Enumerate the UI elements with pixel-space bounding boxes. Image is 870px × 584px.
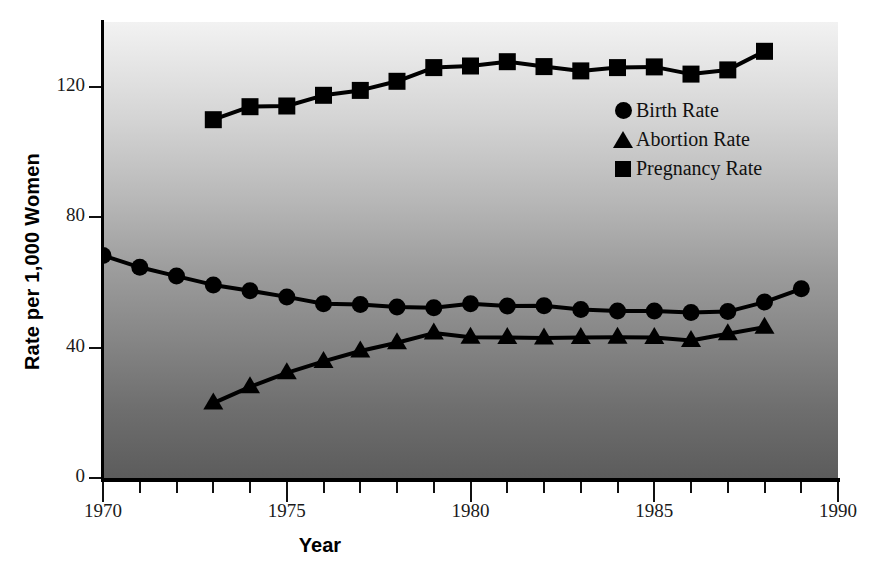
x-tick-mark-minor (176, 482, 178, 493)
triangle-marker (608, 327, 628, 344)
legend-item-birth-rate: Birth Rate (610, 96, 762, 125)
circle-marker (242, 282, 259, 299)
x-tick-label: 1990 (819, 500, 857, 522)
legend-label: Pregnancy Rate (636, 157, 762, 180)
x-tick-mark-major (102, 482, 104, 502)
chart-figure: 04080120 19701975198019851990 Rate per 1… (0, 0, 870, 584)
circle-marker (462, 295, 479, 312)
square-marker (242, 98, 259, 115)
y-tick-mark (89, 477, 101, 479)
circle-marker (499, 298, 516, 315)
circle-marker (719, 303, 736, 320)
square-marker-icon (610, 161, 636, 177)
triangle-marker (424, 323, 444, 340)
x-tick-mark-minor (212, 482, 214, 493)
x-tick-mark-minor (249, 482, 251, 493)
circle-marker-icon (610, 102, 636, 119)
square-marker (756, 43, 773, 60)
x-tick-mark-minor (543, 482, 545, 493)
series-abortion-rate (203, 317, 774, 410)
circle-marker (756, 294, 773, 311)
square-marker (315, 87, 332, 104)
square-marker (499, 53, 516, 70)
circle-marker (278, 288, 295, 305)
legend-item-pregnancy-rate: Pregnancy Rate (610, 154, 762, 183)
circle-marker (315, 295, 332, 312)
square-marker (609, 59, 626, 76)
series-line (213, 327, 764, 403)
chart-legend: Birth Rate Abortion Rate Pregnancy Rate (610, 96, 762, 183)
x-tick-mark-minor (323, 482, 325, 493)
x-tick-mark-minor (139, 482, 141, 493)
series-layer (103, 22, 838, 478)
x-tick-mark-minor (800, 482, 802, 493)
circle-marker (352, 296, 369, 313)
y-tick-label: 0 (30, 465, 85, 487)
circle-marker (205, 276, 222, 293)
x-tick-mark-minor (764, 482, 766, 493)
x-axis-label: Year (0, 534, 640, 557)
y-tick-mark (89, 347, 101, 349)
square-marker (352, 82, 369, 99)
x-tick-mark-major (470, 482, 472, 502)
legend-label: Birth Rate (636, 99, 719, 122)
square-marker (683, 66, 700, 83)
square-marker (425, 59, 442, 76)
x-tick-mark-major (286, 482, 288, 502)
square-marker (572, 62, 589, 79)
plot-area (103, 22, 838, 478)
circle-marker (103, 247, 112, 264)
circle-marker (131, 259, 148, 276)
circle-marker (536, 297, 553, 314)
y-axis-label: Rate per 1,000 Women (21, 62, 44, 462)
square-marker (278, 98, 295, 115)
x-tick-mark-major (837, 482, 839, 502)
x-tick-label: 1970 (84, 500, 122, 522)
x-tick-label: 1980 (452, 500, 490, 522)
square-marker (389, 73, 406, 90)
square-marker (536, 58, 553, 75)
square-marker (462, 58, 479, 75)
triangle-marker (755, 317, 775, 334)
x-tick-mark-minor (617, 482, 619, 493)
x-tick-mark-minor (359, 482, 361, 493)
y-axis-line (101, 20, 104, 482)
x-tick-mark-minor (396, 482, 398, 493)
circle-marker (168, 268, 185, 285)
x-tick-mark-minor (580, 482, 582, 493)
x-tick-mark-minor (727, 482, 729, 493)
circle-marker (793, 280, 810, 297)
series-birth-rate (103, 247, 810, 321)
x-tick-mark-minor (433, 482, 435, 493)
x-tick-label: 1985 (635, 500, 673, 522)
y-tick-mark (89, 86, 101, 88)
circle-marker (425, 299, 442, 316)
circle-marker (389, 299, 406, 316)
square-marker (719, 61, 736, 78)
y-axis: 04080120 (0, 0, 101, 584)
circle-marker (572, 301, 589, 318)
circle-marker (683, 304, 700, 321)
y-tick-mark (89, 216, 101, 218)
x-tick-mark-minor (506, 482, 508, 493)
square-marker (646, 58, 663, 75)
circle-marker (646, 302, 663, 319)
legend-item-abortion-rate: Abortion Rate (610, 125, 762, 154)
x-tick-label: 1975 (268, 500, 306, 522)
triangle-marker-icon (610, 131, 636, 148)
x-tick-mark-minor (690, 482, 692, 493)
x-tick-mark-major (653, 482, 655, 502)
legend-label: Abortion Rate (636, 128, 750, 151)
square-marker (205, 111, 222, 128)
circle-marker (609, 302, 626, 319)
